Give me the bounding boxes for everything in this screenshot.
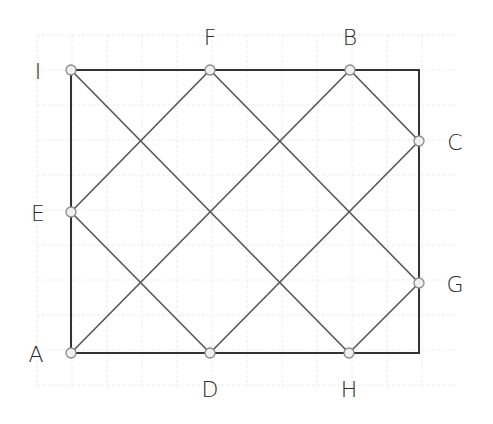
- point-F: [205, 65, 215, 75]
- segment-FG: [210, 70, 419, 283]
- label-B: B: [343, 25, 357, 50]
- point-H: [344, 348, 354, 358]
- rectangle-frame: [71, 70, 419, 353]
- label-C: C: [447, 130, 462, 155]
- point-D: [205, 348, 215, 358]
- label-H: H: [341, 377, 358, 402]
- label-D: D: [202, 377, 219, 402]
- points: [66, 65, 424, 358]
- point-E: [66, 207, 76, 217]
- point-B: [345, 65, 355, 75]
- point-A: [66, 348, 76, 358]
- diagram-canvas: ABCDEFGHI: [0, 0, 493, 424]
- background-grid: [37, 35, 455, 390]
- point-C: [414, 136, 424, 146]
- segment-HG: [349, 283, 419, 353]
- label-F: F: [204, 25, 217, 50]
- segment-DC: [210, 141, 419, 353]
- point-G: [414, 278, 424, 288]
- point-I: [66, 65, 76, 75]
- label-G: G: [446, 272, 463, 297]
- point-labels: ABCDEFGHI: [28, 25, 463, 402]
- segments: [71, 70, 419, 353]
- label-I: I: [35, 59, 42, 84]
- label-E: E: [31, 201, 45, 226]
- label-A: A: [28, 342, 43, 367]
